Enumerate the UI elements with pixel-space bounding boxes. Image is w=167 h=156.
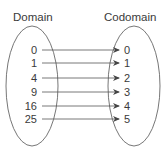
codomain-value: 1 [124,57,130,69]
domain-value: 1 [31,57,37,69]
codomain-value: 5 [124,113,130,125]
codomain-ellipse [108,26,160,146]
domain-value: 9 [31,86,37,98]
codomain-value: 2 [124,72,130,84]
domain-value: 4 [31,72,37,84]
domain-value: 16 [25,100,37,112]
codomain-value: 0 [124,44,130,56]
codomain-title: Codomain [104,11,156,24]
domain-title: Domain [13,11,53,24]
codomain-value: 3 [124,86,130,98]
domain-value: 0 [31,44,37,56]
codomain-value: 4 [124,100,130,112]
domain-value: 25 [25,113,37,125]
